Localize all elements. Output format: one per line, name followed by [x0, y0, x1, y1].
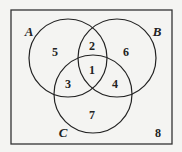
set-label-a: A — [24, 24, 34, 39]
region-label-7: 7 — [89, 108, 95, 122]
region-label-3: 3 — [65, 77, 71, 91]
region-label-1: 1 — [89, 63, 95, 77]
region-label-4: 4 — [112, 77, 118, 91]
region-label-5: 5 — [52, 45, 58, 59]
venn-diagram: A B C 1 2 3 4 5 6 7 8 — [0, 0, 182, 152]
set-label-b: B — [152, 24, 162, 39]
universe-rectangle — [11, 10, 172, 144]
region-label-6: 6 — [123, 45, 129, 59]
region-label-2: 2 — [89, 39, 95, 53]
set-label-c: C — [59, 125, 68, 140]
region-label-8: 8 — [155, 126, 161, 140]
